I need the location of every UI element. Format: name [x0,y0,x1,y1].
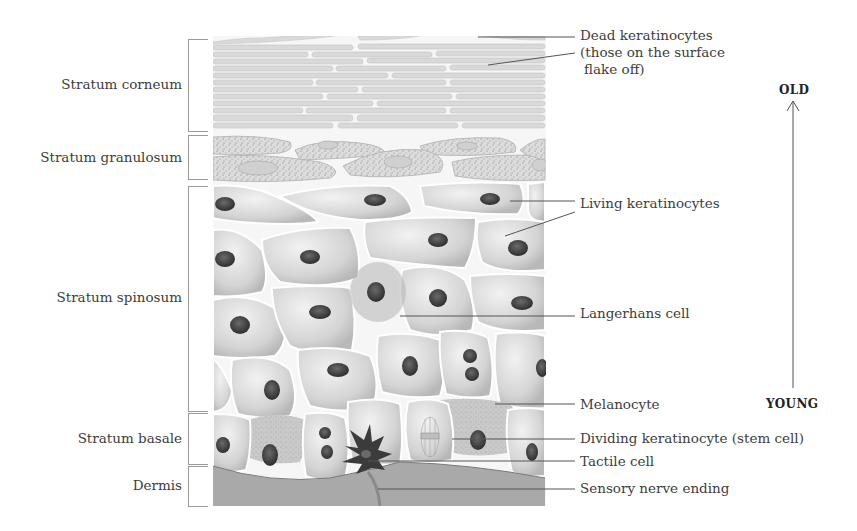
label-stratum-basale: Stratum basale [0,430,182,446]
dividing-keratinocyte-spindle [421,417,439,457]
annotation-line: flake off) [580,61,725,78]
annotation-dead-keratinocytes: Dead keratinocytes (those on the surface… [580,27,725,78]
age-label-old: OLD [779,83,809,97]
annotation-langerhans-cell: Langerhans cell [580,305,690,322]
age-arrow [787,101,799,388]
bracket-dermis [188,466,208,507]
annotation-melanocyte: Melanocyte [580,396,660,413]
label-stratum-corneum: Stratum corneum [0,76,182,92]
age-label-young: YOUNG [766,397,818,411]
annotation-line: Dead keratinocytes [580,27,725,44]
label-stratum-granulosum: Stratum granulosum [0,149,182,165]
bracket-stratum-basale [188,413,208,465]
bracket-stratum-spinosum [188,186,208,412]
annotation-tactile-cell: Tactile cell [580,453,654,470]
label-dermis: Dermis [0,477,182,493]
annotation-sensory-nerve-ending: Sensory nerve ending [580,480,729,497]
bracket-stratum-corneum [188,39,208,132]
annotation-line: (those on the surface [580,44,725,61]
label-stratum-spinosum: Stratum spinosum [0,289,182,305]
annotation-dividing-keratinocyte: Dividing keratinocyte (stem cell) [580,430,804,447]
bracket-stratum-granulosum [188,135,208,180]
annotation-living-keratinocytes: Living keratinocytes [580,195,720,212]
